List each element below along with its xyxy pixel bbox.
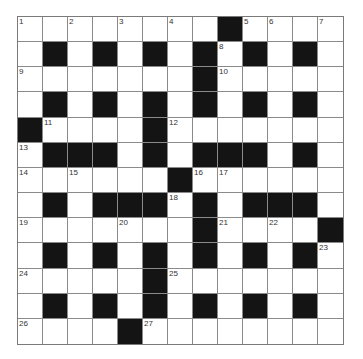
letter-cell[interactable] (168, 92, 193, 117)
letter-cell[interactable] (218, 294, 243, 319)
letter-cell[interactable] (143, 17, 168, 42)
letter-cell[interactable]: 14 (18, 168, 43, 193)
letter-cell[interactable] (168, 243, 193, 268)
letter-cell[interactable]: 21 (218, 218, 243, 243)
letter-cell[interactable] (68, 193, 93, 218)
letter-cell[interactable] (268, 294, 293, 319)
letter-cell[interactable] (143, 67, 168, 92)
letter-cell[interactable] (318, 92, 343, 117)
letter-cell[interactable] (243, 67, 268, 92)
letter-cell[interactable] (193, 319, 218, 344)
letter-cell[interactable]: 13 (18, 143, 43, 168)
letter-cell[interactable] (218, 319, 243, 344)
letter-cell[interactable]: 27 (143, 319, 168, 344)
letter-cell[interactable]: 15 (68, 168, 93, 193)
letter-cell[interactable] (268, 168, 293, 193)
letter-cell[interactable] (193, 269, 218, 294)
letter-cell[interactable] (18, 92, 43, 117)
letter-cell[interactable] (168, 294, 193, 319)
letter-cell[interactable] (18, 243, 43, 268)
letter-cell[interactable]: 25 (168, 269, 193, 294)
letter-cell[interactable] (93, 218, 118, 243)
letter-cell[interactable] (68, 118, 93, 143)
letter-cell[interactable] (268, 269, 293, 294)
letter-cell[interactable] (68, 319, 93, 344)
letter-cell[interactable] (118, 67, 143, 92)
letter-cell[interactable] (268, 243, 293, 268)
letter-cell[interactable]: 24 (18, 269, 43, 294)
letter-cell[interactable] (318, 42, 343, 67)
letter-cell[interactable] (293, 218, 318, 243)
letter-cell[interactable] (268, 92, 293, 117)
letter-cell[interactable] (18, 42, 43, 67)
letter-cell[interactable] (118, 294, 143, 319)
letter-cell[interactable] (43, 269, 68, 294)
letter-cell[interactable] (118, 269, 143, 294)
letter-cell[interactable] (93, 118, 118, 143)
letter-cell[interactable] (43, 17, 68, 42)
letter-cell[interactable] (168, 42, 193, 67)
letter-cell[interactable]: 5 (243, 17, 268, 42)
letter-cell[interactable] (268, 118, 293, 143)
letter-cell[interactable] (293, 67, 318, 92)
letter-cell[interactable] (268, 143, 293, 168)
letter-cell[interactable] (193, 17, 218, 42)
letter-cell[interactable] (118, 168, 143, 193)
letter-cell[interactable]: 10 (218, 67, 243, 92)
letter-cell[interactable]: 26 (18, 319, 43, 344)
letter-cell[interactable]: 11 (43, 118, 68, 143)
letter-cell[interactable] (93, 269, 118, 294)
letter-cell[interactable] (268, 67, 293, 92)
letter-cell[interactable] (93, 319, 118, 344)
letter-cell[interactable] (68, 269, 93, 294)
letter-cell[interactable] (43, 319, 68, 344)
letter-cell[interactable] (68, 243, 93, 268)
letter-cell[interactable]: 12 (168, 118, 193, 143)
letter-cell[interactable] (143, 218, 168, 243)
letter-cell[interactable] (318, 118, 343, 143)
letter-cell[interactable] (93, 17, 118, 42)
letter-cell[interactable] (318, 168, 343, 193)
letter-cell[interactable] (293, 319, 318, 344)
letter-cell[interactable] (193, 118, 218, 143)
letter-cell[interactable] (268, 42, 293, 67)
letter-cell[interactable] (318, 319, 343, 344)
letter-cell[interactable]: 22 (268, 218, 293, 243)
letter-cell[interactable] (293, 269, 318, 294)
letter-cell[interactable] (218, 243, 243, 268)
letter-cell[interactable] (243, 319, 268, 344)
letter-cell[interactable]: 16 (193, 168, 218, 193)
letter-cell[interactable] (318, 67, 343, 92)
letter-cell[interactable] (218, 269, 243, 294)
letter-cell[interactable]: 20 (118, 218, 143, 243)
letter-cell[interactable] (168, 67, 193, 92)
letter-cell[interactable] (318, 193, 343, 218)
letter-cell[interactable] (218, 193, 243, 218)
letter-cell[interactable] (168, 143, 193, 168)
letter-cell[interactable] (68, 294, 93, 319)
letter-cell[interactable] (18, 193, 43, 218)
letter-cell[interactable] (318, 269, 343, 294)
letter-cell[interactable]: 2 (68, 17, 93, 42)
letter-cell[interactable]: 3 (118, 17, 143, 42)
letter-cell[interactable] (168, 319, 193, 344)
letter-cell[interactable]: 19 (18, 218, 43, 243)
letter-cell[interactable] (318, 294, 343, 319)
letter-cell[interactable] (43, 67, 68, 92)
letter-cell[interactable] (118, 42, 143, 67)
letter-cell[interactable] (243, 218, 268, 243)
letter-cell[interactable] (268, 319, 293, 344)
letter-cell[interactable] (218, 92, 243, 117)
letter-cell[interactable] (118, 243, 143, 268)
letter-cell[interactable] (243, 269, 268, 294)
letter-cell[interactable] (243, 118, 268, 143)
letter-cell[interactable]: 8 (218, 42, 243, 67)
letter-cell[interactable] (118, 118, 143, 143)
letter-cell[interactable] (243, 168, 268, 193)
letter-cell[interactable]: 18 (168, 193, 193, 218)
letter-cell[interactable]: 7 (318, 17, 343, 42)
letter-cell[interactable] (318, 143, 343, 168)
letter-cell[interactable] (168, 218, 193, 243)
letter-cell[interactable] (293, 118, 318, 143)
letter-cell[interactable]: 23 (318, 243, 343, 268)
